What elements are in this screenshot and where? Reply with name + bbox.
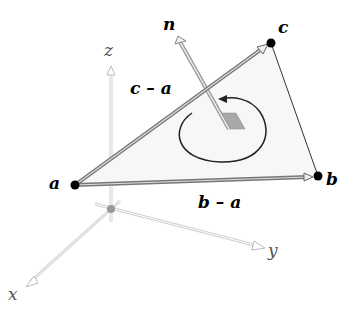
label-c-minus-a: c – a xyxy=(130,78,172,98)
label-normal-n: n xyxy=(163,14,175,34)
label-b-minus-a: b – a xyxy=(198,192,241,212)
vertex-a-point xyxy=(71,181,80,190)
label-axis-z: z xyxy=(104,40,113,60)
label-axis-x: x xyxy=(8,284,18,304)
label-vertex-a: a xyxy=(49,173,60,193)
label-vertex-b: b xyxy=(326,169,338,189)
label-axis-y: y xyxy=(268,240,278,260)
vertex-c-point xyxy=(267,39,276,48)
triangle-normal-diagram: a b c n c – a b – a z y x xyxy=(0,0,360,316)
normal-arrowhead xyxy=(175,36,186,44)
diagram-canvas xyxy=(0,0,360,316)
z-axis-arrowhead xyxy=(107,66,115,75)
vertex-b-point xyxy=(314,172,323,181)
y-axis-arrowhead xyxy=(252,241,265,250)
origin-point xyxy=(107,205,115,213)
label-vertex-c: c xyxy=(278,17,288,37)
